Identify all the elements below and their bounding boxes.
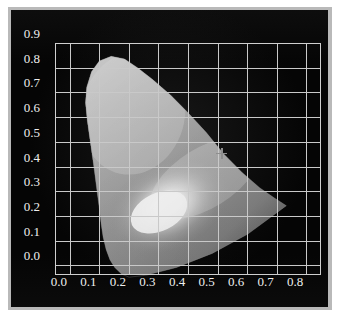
x-tick-label: 0.3 [132, 275, 162, 288]
marker-vertical-bar [221, 148, 223, 159]
x-tick-label: 0.5 [192, 275, 222, 288]
gridline-y-0.4 [55, 167, 321, 168]
x-tick-label: 0.8 [280, 275, 310, 288]
x-tick-label: 0.7 [251, 275, 281, 288]
plot-area [55, 43, 321, 275]
x-tick-label: 0.4 [162, 275, 192, 288]
gridline-y-0.1 [55, 241, 321, 242]
y-tick-label: 0.7 [11, 76, 40, 89]
y-tick-label: 0.4 [11, 151, 40, 164]
gridline-y-0.8 [55, 68, 321, 69]
gridline-y-0.6 [55, 117, 321, 118]
y-tick-label: 0.0 [11, 249, 40, 262]
gridline-y-0.2 [55, 216, 321, 217]
y-tick-label: 0.6 [11, 101, 40, 114]
y-tick-label: 0.9 [11, 27, 40, 40]
white-point-marker [216, 148, 227, 159]
cie-chromaticity-figure: 0.00.10.20.30.40.50.60.70.80.9 0.00.10.2… [0, 0, 340, 320]
gridline-y-0.3 [55, 191, 321, 192]
y-tick-label: 0.2 [11, 200, 40, 213]
gridline-y-0.7 [55, 92, 321, 93]
gridline-y-0.9 [55, 43, 321, 44]
y-tick-label: 0.3 [11, 175, 40, 188]
x-tick-label: 0.6 [221, 275, 251, 288]
gridline-y-0.5 [55, 142, 321, 143]
figure-plate: 0.00.10.20.30.40.50.60.70.80.9 0.00.10.2… [11, 10, 328, 307]
y-tick-label: 0.8 [11, 52, 40, 65]
x-tick-label: 0.0 [44, 275, 74, 288]
gridline-y-0.0 [55, 265, 321, 266]
y-tick-label: 0.5 [11, 126, 40, 139]
x-tick-label: 0.1 [73, 275, 103, 288]
y-tick-label: 0.1 [11, 225, 40, 238]
